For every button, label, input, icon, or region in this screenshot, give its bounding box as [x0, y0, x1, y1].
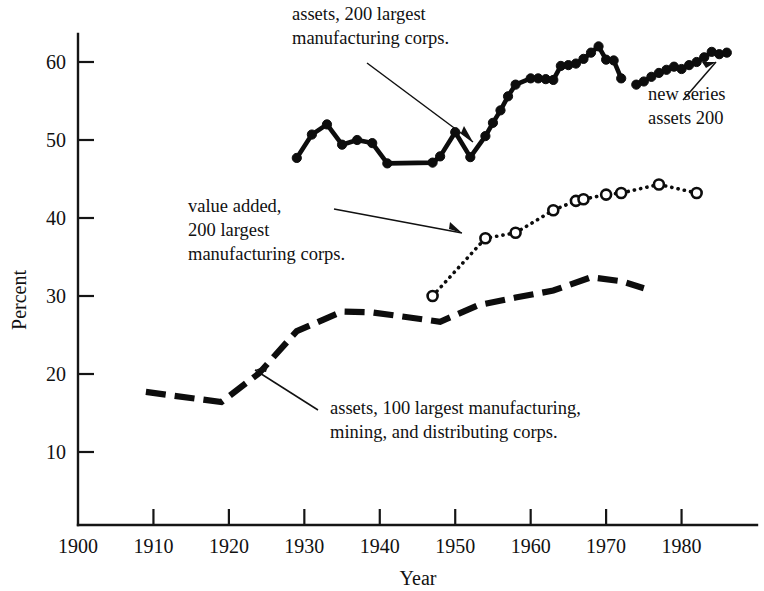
- data-point: [322, 120, 331, 129]
- x-tick-label-1970: 1970: [586, 535, 626, 557]
- annot-value-added-line3: manufacturing corps.: [188, 244, 345, 264]
- data-point: [511, 228, 521, 238]
- data-point: [496, 106, 505, 115]
- data-point: [617, 74, 626, 83]
- data-point: [488, 118, 497, 127]
- leader-value-added: [334, 209, 462, 233]
- data-point: [383, 159, 392, 168]
- series-value-added-200: [428, 179, 702, 301]
- y-tick-label-60: 60: [46, 51, 66, 73]
- data-point: [722, 48, 731, 57]
- x-axis-tick-labels: 190019101920193019401950196019701980: [58, 535, 702, 557]
- annot-value-added-line2: 200 largest: [188, 220, 270, 240]
- annot-assets200-line2: manufacturing corps.: [292, 28, 449, 48]
- annot-assets100-line2: mining, and distributing corps.: [330, 422, 558, 442]
- annot-assets200-line1: assets, 200 largest: [292, 4, 427, 24]
- data-point: [578, 194, 588, 204]
- series-new-series-assets-200: [632, 47, 732, 89]
- series-assets-200: [292, 42, 626, 168]
- y-axis-title: Percent: [8, 270, 30, 330]
- x-axis-ticks: [153, 509, 681, 525]
- data-point: [368, 139, 377, 148]
- data-point: [307, 130, 316, 139]
- data-point: [466, 153, 475, 162]
- annotation-new-series: new series assets 200: [648, 84, 726, 128]
- annot-assets100-line1: assets, 100 largest manufacturing,: [330, 398, 581, 418]
- x-tick-label-1910: 1910: [133, 535, 173, 557]
- annotation-assets-100: assets, 100 largest manufacturing, minin…: [330, 398, 581, 442]
- data-point: [503, 92, 512, 101]
- annotation-value-added: value added, 200 largest manufacturing c…: [188, 196, 345, 264]
- y-tick-label-30: 30: [46, 285, 66, 307]
- data-point: [292, 153, 301, 162]
- y-tick-label-20: 20: [46, 363, 66, 385]
- data-point: [549, 75, 558, 84]
- x-tick-label-1980: 1980: [662, 535, 702, 557]
- data-point: [337, 140, 346, 149]
- y-tick-label-50: 50: [46, 129, 66, 151]
- data-point: [481, 132, 490, 141]
- data-point: [692, 188, 702, 198]
- y-tick-label-10: 10: [46, 441, 66, 463]
- data-point: [579, 54, 588, 63]
- data-point: [548, 205, 558, 215]
- series-assets-100: [146, 277, 644, 402]
- series-line-3: [146, 277, 644, 402]
- chart-figure: 102030405060 190019101920193019401950196…: [0, 0, 764, 591]
- data-point: [428, 291, 438, 301]
- leader-assets200-arrowhead: [461, 126, 473, 142]
- series-line-2: [433, 184, 697, 296]
- data-point: [353, 135, 362, 144]
- data-point: [586, 48, 595, 57]
- data-point: [480, 233, 490, 243]
- leader-assets100: [255, 370, 318, 410]
- data-point: [654, 179, 664, 189]
- data-point: [609, 56, 618, 65]
- y-axis-tick-labels: 102030405060: [46, 51, 66, 463]
- x-tick-label-1960: 1960: [511, 535, 551, 557]
- data-point: [436, 152, 445, 161]
- chart-canvas: 102030405060 190019101920193019401950196…: [0, 0, 764, 591]
- data-point: [428, 158, 437, 167]
- x-tick-label-1940: 1940: [360, 535, 400, 557]
- x-tick-label-1950: 1950: [435, 535, 475, 557]
- y-tick-label-40: 40: [46, 207, 66, 229]
- x-tick-label-1930: 1930: [284, 535, 324, 557]
- data-point: [594, 42, 603, 51]
- x-tick-label-1920: 1920: [209, 535, 249, 557]
- leader-assets200: [367, 63, 473, 142]
- annotation-assets-200: assets, 200 largest manufacturing corps.: [292, 4, 449, 48]
- data-point: [616, 188, 626, 198]
- x-tick-label-1900: 1900: [58, 535, 98, 557]
- annot-new-series-line2: assets 200: [648, 108, 724, 128]
- data-point: [601, 190, 611, 200]
- y-axis-ticks: [78, 62, 94, 452]
- x-axis-title: Year: [400, 567, 437, 589]
- annot-value-added-line1: value added,: [188, 196, 282, 216]
- annot-new-series-line1: new series: [648, 84, 726, 104]
- data-point: [511, 80, 520, 89]
